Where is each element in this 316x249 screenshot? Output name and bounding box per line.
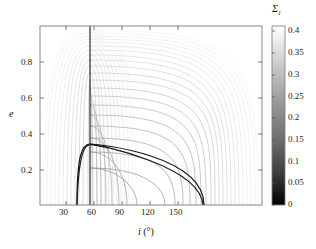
plot-area xyxy=(40,26,262,205)
x-axis-title: i (°) xyxy=(138,226,154,237)
contour-figure xyxy=(0,0,316,249)
y-tick-label-02: 0.2 xyxy=(21,165,32,175)
x-tick-label-120: 120 xyxy=(141,207,155,217)
x-tick-label-60: 60 xyxy=(87,207,96,217)
y-tick-label-06: 0.6 xyxy=(21,93,32,103)
colorbar-label-035: 0.35 xyxy=(288,47,304,57)
y-axis-title: e xyxy=(9,108,13,119)
colorbar-label-025: 0.25 xyxy=(288,91,304,101)
x-axis-units: (°) xyxy=(141,226,154,237)
colorbar-label-040: 0.4 xyxy=(288,25,299,35)
colorbar-label-015: 0.15 xyxy=(288,134,304,144)
colorbar-title: Σ1 xyxy=(272,3,281,16)
colorbar-label-010: 0.1 xyxy=(288,156,299,166)
y-tick-label-04: 0.4 xyxy=(21,129,32,139)
colorbar-label-020: 0.2 xyxy=(288,112,299,122)
colorbar-label-005: 0.05 xyxy=(288,177,304,187)
x-tick-label-30: 30 xyxy=(59,207,68,217)
x-tick-label-90: 90 xyxy=(115,207,124,217)
colorbar-label-030: 0.3 xyxy=(288,69,299,79)
colorbar-label-000: 0 xyxy=(288,199,293,209)
y-tick-label-08: 0.8 xyxy=(21,57,32,67)
colorbar-subscript: 1 xyxy=(278,10,281,16)
x-tick-label-150: 150 xyxy=(169,207,183,217)
